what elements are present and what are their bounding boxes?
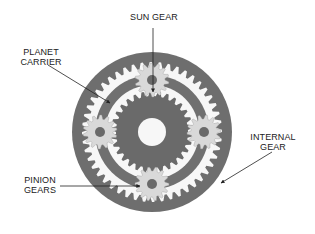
planet-carrier-line2: CARRIER: [18, 57, 64, 67]
internal-gear-label: INTERNAL GEAR: [248, 132, 298, 152]
internal-gear-line1: INTERNAL: [248, 132, 298, 142]
planet-carrier-line1: PLANET: [18, 47, 64, 57]
internal-gear-pointer: [221, 152, 272, 183]
sun-gear-text: SUN GEAR: [130, 12, 178, 22]
pinion-gear-hub: [147, 179, 157, 189]
sun-gear-bore: [138, 118, 166, 146]
planet-carrier-label: PLANET CARRIER: [18, 47, 64, 67]
pinion-gears-line1: PINION: [20, 175, 60, 185]
pinion-gear-hub: [199, 127, 209, 137]
internal-gear-line2: GEAR: [248, 142, 298, 152]
pinion-gear-hub: [147, 75, 157, 85]
pinion-gears-label: PINION GEARS: [20, 175, 60, 195]
sun-gear-label: SUN GEAR: [128, 12, 180, 22]
pinion-gears-line2: GEARS: [20, 185, 60, 195]
pinion-gear-hub: [95, 127, 105, 137]
planetary-gear-diagram: [0, 0, 315, 234]
